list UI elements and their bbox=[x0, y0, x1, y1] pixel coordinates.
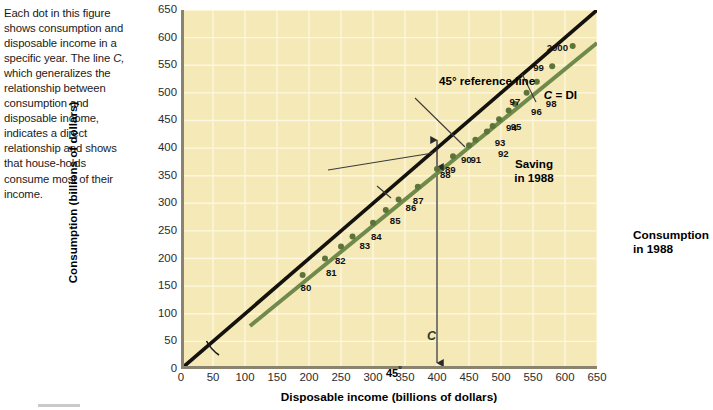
data-point-2000 bbox=[570, 43, 576, 49]
y-tick-400: 400 bbox=[143, 141, 177, 153]
x-axis-tick-labels: 050100150200250300350400450500550600650 bbox=[0, 371, 605, 391]
data-point-85 bbox=[383, 207, 389, 213]
year-label-81: 81 bbox=[326, 267, 337, 278]
x-tick-650: 650 bbox=[577, 371, 617, 383]
year-label-87: 87 bbox=[413, 195, 424, 206]
y-tick-150: 150 bbox=[143, 279, 177, 291]
y-tick-500: 500 bbox=[143, 86, 177, 98]
year-label-91: 91 bbox=[470, 154, 481, 165]
y-axis-title: Consumption (billions of dollars) bbox=[66, 43, 79, 343]
plot-area: 8081828384858687888990919293949596979899… bbox=[181, 10, 597, 369]
data-point-82 bbox=[338, 243, 344, 249]
year-label-80: 80 bbox=[301, 282, 312, 293]
caption-part-2: which generalizes the relationship betwe… bbox=[4, 67, 117, 199]
y-tick-550: 550 bbox=[143, 58, 177, 70]
y-tick-50: 50 bbox=[143, 334, 177, 346]
reference-line-annotation-line1: 45° reference line bbox=[439, 74, 535, 87]
reference-line-c-symbol: C bbox=[544, 88, 552, 101]
saving-annotation-line1: Saving bbox=[499, 157, 569, 171]
data-point-92 bbox=[484, 129, 490, 135]
y-tick-100: 100 bbox=[143, 307, 177, 319]
reference-line-annotation-line2: C = DI bbox=[439, 88, 599, 102]
year-label-99: 99 bbox=[533, 62, 544, 73]
year-label-95: 95 bbox=[511, 121, 522, 132]
data-point-99 bbox=[549, 63, 555, 69]
y-tick-600: 600 bbox=[143, 31, 177, 43]
year-label-85: 85 bbox=[390, 215, 401, 226]
data-point-94 bbox=[496, 116, 502, 122]
year-label-93: 93 bbox=[495, 137, 506, 148]
reference-line-annotation: 45° reference line C = DI bbox=[439, 74, 599, 102]
year-label-89: 89 bbox=[445, 164, 456, 175]
y-tick-650: 650 bbox=[143, 3, 177, 15]
data-point-90 bbox=[466, 142, 472, 148]
consumption-annotation-line2: in 1988 bbox=[633, 242, 713, 256]
year-label-84: 84 bbox=[371, 231, 382, 242]
data-point-81 bbox=[322, 256, 328, 262]
year-label-83: 83 bbox=[360, 240, 371, 251]
data-point-83 bbox=[350, 233, 356, 239]
saving-annotation: Saving in 1988 bbox=[499, 157, 569, 185]
data-point-95 bbox=[506, 108, 512, 114]
data-point-87 bbox=[415, 184, 421, 190]
reference-line-equals-di: = DI bbox=[552, 88, 577, 101]
y-tick-250: 250 bbox=[143, 224, 177, 236]
y-tick-200: 200 bbox=[143, 252, 177, 264]
data-point-91 bbox=[472, 137, 478, 143]
year-label-2000: 2000 bbox=[547, 42, 568, 53]
year-label-82: 82 bbox=[335, 255, 346, 266]
data-point-93 bbox=[490, 123, 496, 129]
data-point-80 bbox=[300, 272, 306, 278]
y-axis-tick-labels: 050100150200250300350400450500550600650 bbox=[139, 0, 177, 410]
data-point-89 bbox=[450, 153, 456, 159]
caption-part-1: Each dot in this figure shows consumptio… bbox=[4, 7, 123, 64]
y-tick-450: 450 bbox=[143, 113, 177, 125]
x-axis-title: Disposable income (billions of dollars) bbox=[181, 390, 597, 404]
year-label-96: 96 bbox=[531, 106, 542, 117]
data-point-84 bbox=[370, 220, 376, 226]
y-tick-300: 300 bbox=[143, 196, 177, 208]
caption-italic-c: C, bbox=[113, 52, 124, 64]
data-point-86 bbox=[396, 196, 402, 202]
consumption-annotation: Consumption in 1988 bbox=[633, 228, 713, 257]
consumption-annotation-line1: Consumption bbox=[633, 228, 713, 242]
saving-annotation-line2: in 1988 bbox=[499, 171, 569, 185]
y-tick-350: 350 bbox=[143, 169, 177, 181]
reference-leader-line bbox=[415, 98, 465, 147]
bottom-rule bbox=[38, 404, 80, 407]
consumption-line-label: C bbox=[427, 329, 436, 344]
